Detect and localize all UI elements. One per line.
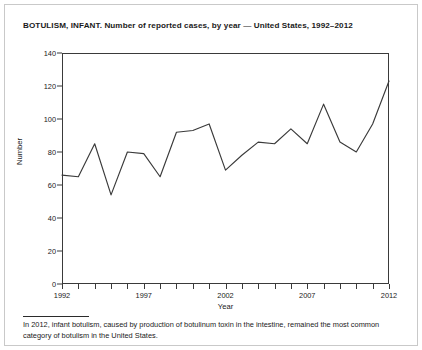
x-tick-label: 2007	[299, 291, 315, 300]
x-tick-label: 1997	[136, 291, 152, 300]
x-tick-mark	[95, 284, 96, 289]
x-tick-mark	[291, 284, 292, 289]
x-axis-title: Year	[62, 302, 389, 311]
series-polyline	[62, 81, 389, 195]
chart-page: BOTULISM, INFANT. Number of reported cas…	[0, 0, 422, 350]
plot-area	[62, 53, 389, 284]
series-line-reported-cases	[62, 53, 389, 284]
x-tick-mark	[127, 284, 128, 289]
x-tick-mark	[226, 284, 227, 289]
x-axis-ticks	[62, 284, 389, 290]
x-tick-mark	[373, 284, 374, 289]
x-tick-mark	[389, 284, 390, 289]
x-tick-mark	[275, 284, 276, 289]
page-title: BOTULISM, INFANT. Number of reported cas…	[23, 21, 353, 30]
y-tick-label: 140	[44, 49, 56, 58]
x-tick-mark	[160, 284, 161, 289]
y-tick-label: 80	[48, 148, 56, 157]
x-tick-mark	[78, 284, 79, 289]
y-tick-label: 20	[48, 247, 56, 256]
x-tick-mark	[324, 284, 325, 289]
x-tick-mark	[144, 284, 145, 289]
x-tick-mark	[111, 284, 112, 289]
figure-frame: BOTULISM, INFANT. Number of reported cas…	[4, 4, 418, 346]
x-tick-mark	[193, 284, 194, 289]
x-tick-mark	[176, 284, 177, 289]
x-tick-mark	[62, 284, 63, 289]
x-tick-mark	[258, 284, 259, 289]
y-tick-label: 40	[48, 214, 56, 223]
x-tick-mark	[242, 284, 243, 289]
y-tick-label: 100	[44, 115, 56, 124]
x-tick-mark	[356, 284, 357, 289]
y-axis-title: Number	[15, 122, 24, 182]
footnote-rule	[23, 316, 89, 317]
y-tick-label: 120	[44, 82, 56, 91]
footnote-text: In 2012, infant botulism, caused by prod…	[23, 320, 409, 341]
x-tick-label: 1992	[54, 291, 70, 300]
y-axis-tick-labels: 020406080100120140	[25, 53, 56, 284]
x-tick-mark	[209, 284, 210, 289]
x-tick-label: 2012	[381, 291, 397, 300]
y-tick-label: 60	[48, 181, 56, 190]
x-tick-label: 2002	[217, 291, 233, 300]
x-tick-mark	[307, 284, 308, 289]
x-tick-mark	[340, 284, 341, 289]
